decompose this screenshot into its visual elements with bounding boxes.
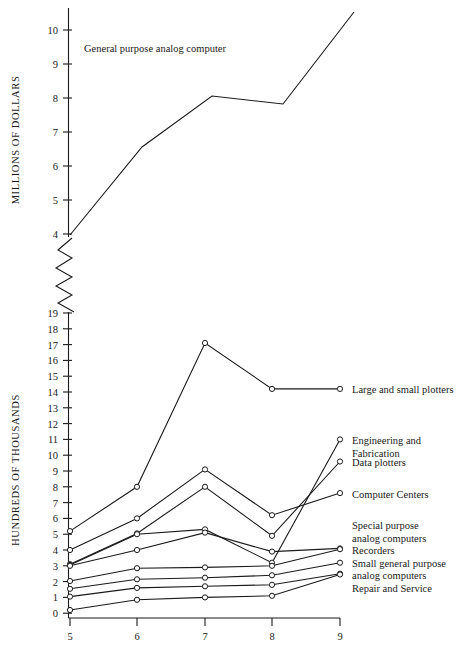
series-label-repair-and-service: Repair and Service — [352, 583, 432, 594]
lower-tick-label-6: 6 — [53, 513, 58, 524]
upper-tick-label-8: 8 — [53, 93, 58, 104]
upper-tick-label-6: 6 — [53, 161, 58, 172]
upper-tick-label-4: 4 — [53, 229, 59, 240]
lower-tick-label-8: 8 — [53, 482, 58, 493]
series-label-computer-centers: Computer Centers — [352, 489, 429, 500]
lower-tick-label-12: 12 — [48, 419, 59, 430]
lower-tick-label-14: 14 — [48, 387, 59, 398]
lower-tick-label-19: 19 — [48, 308, 59, 319]
x-tick-label-6: 6 — [134, 631, 139, 642]
lower-tick-label-10: 10 — [48, 450, 59, 461]
x-tick-marks — [70, 618, 340, 626]
lower-panel: 19 18 17 16 15 14 13 12 11 10 9 8 7 6 5 … — [10, 308, 454, 642]
data-point-markers — [67, 340, 342, 612]
series-label-special-purpose: Special purpose — [352, 520, 419, 531]
series-label-analog-computers-2: analog computers — [352, 570, 426, 581]
series-label-small-general-purpose: Small general purpose — [352, 558, 446, 569]
annotation-general-purpose-analog-computer: General purpose analog computer — [84, 43, 226, 54]
series-line-special-purpose-analog-computers — [70, 533, 340, 566]
lower-tick-label-0: 0 — [53, 608, 58, 619]
lower-tick-label-5: 5 — [53, 529, 58, 540]
upper-tick-label-9: 9 — [53, 59, 58, 70]
series-line-large-and-small-plotters — [70, 343, 340, 531]
x-tick-label-9: 9 — [337, 631, 342, 642]
lower-tick-label-17: 17 — [48, 340, 59, 351]
upper-tick-label-10: 10 — [48, 25, 59, 36]
series-line-engineering-and-fabrication — [70, 439, 340, 565]
series-label-data-plotters: Data plotters — [352, 457, 406, 468]
chart-figure: 10 9 8 7 6 5 4 MILLIONS OF DOLLARS Gener… — [0, 0, 463, 649]
lower-tick-label-7: 7 — [53, 498, 58, 509]
lower-tick-label-13: 13 — [48, 403, 59, 414]
series-label-large-and-small-plotters: Large and small plotters — [352, 384, 454, 395]
axis-break-zigzag — [56, 238, 74, 312]
lower-tick-label-18: 18 — [48, 324, 59, 335]
chart-canvas: 10 9 8 7 6 5 4 MILLIONS OF DOLLARS Gener… — [0, 0, 463, 649]
lower-tick-label-3: 3 — [53, 561, 58, 572]
upper-tick-label-5: 5 — [53, 195, 58, 206]
lower-tick-label-4: 4 — [53, 545, 59, 556]
series-label-analog-computers-1: analog computers — [352, 533, 426, 544]
lower-tick-label-15: 15 — [48, 371, 59, 382]
upper-tick-marks — [63, 30, 72, 234]
upper-panel: 10 9 8 7 6 5 4 MILLIONS OF DOLLARS Gener… — [10, 8, 354, 240]
series-label-recorders: Recorders — [352, 545, 395, 556]
x-tick-label-5: 5 — [67, 631, 72, 642]
lower-axis-title: HUNDREDS OF THOUSANDS — [10, 394, 21, 546]
series-line-computer-centers — [70, 469, 340, 550]
x-tick-label-7: 7 — [202, 631, 207, 642]
lower-tick-label-9: 9 — [53, 466, 58, 477]
upper-axis-title: MILLIONS OF DOLLARS — [10, 76, 21, 205]
lower-tick-label-16: 16 — [48, 355, 59, 366]
lower-tick-label-11: 11 — [48, 434, 58, 445]
x-tick-label-8: 8 — [269, 631, 274, 642]
lower-tick-label-1: 1 — [53, 592, 58, 603]
lower-tick-label-2: 2 — [53, 577, 58, 588]
series-label-engineering-and: Engineering and — [352, 435, 422, 446]
upper-tick-label-7: 7 — [53, 127, 58, 138]
